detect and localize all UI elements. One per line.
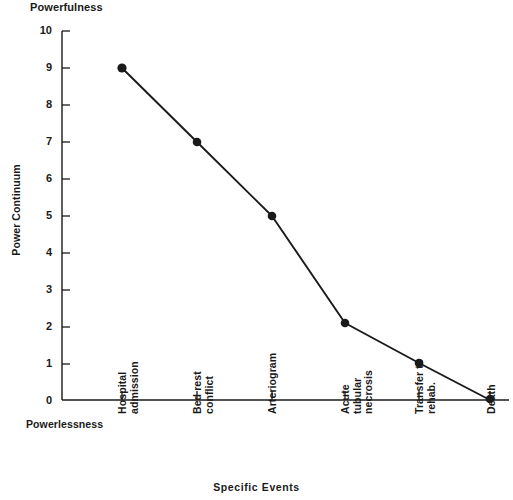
data-point-markers <box>117 63 494 403</box>
data-point-hospital-admission <box>117 63 126 72</box>
y-tick-marks <box>62 31 70 364</box>
data-point-bed-rest-conflict <box>193 138 202 147</box>
data-point-death <box>486 395 495 404</box>
data-series-line <box>122 68 490 400</box>
power-continuum-chart: Powerfulness Power Continuum Specific Ev… <box>0 0 513 500</box>
x-tick-marks <box>122 391 490 400</box>
data-point-transfer-to-rehab <box>415 359 424 368</box>
plot-area <box>0 0 513 500</box>
data-point-acute-tubular-necrosis <box>341 319 350 328</box>
data-point-arteriogram <box>268 212 277 221</box>
